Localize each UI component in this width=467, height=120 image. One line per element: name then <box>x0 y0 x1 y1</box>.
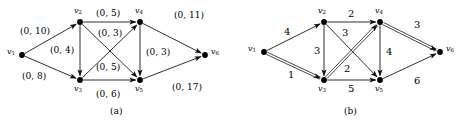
node-label-v4: v4 <box>375 7 383 15</box>
node-label-v6: v6 <box>446 45 454 53</box>
node-v5 <box>137 77 143 83</box>
edge-label-v1-v2: 4 <box>284 27 290 37</box>
node-v3 <box>321 77 327 83</box>
edge-label-v2-v3: (0, 4) <box>50 46 74 55</box>
node-v2 <box>77 19 83 25</box>
node-v5 <box>377 77 383 83</box>
node-label-subscript: 4 <box>380 9 384 15</box>
node-label-v1: v1 <box>7 48 15 56</box>
node-label-v2: v2 <box>74 7 82 15</box>
edge-label-v5-v6: (0, 17) <box>172 83 202 92</box>
node-label-v5: v5 <box>135 85 143 93</box>
node-label-v2: v2 <box>318 7 326 15</box>
node-label-v3: v3 <box>318 85 326 93</box>
panel-b: 4132325436v1v2v3v4v5v6 (b) <box>234 0 467 120</box>
edge-label-v3-v4: (0, 5) <box>96 63 120 72</box>
node-label-subscript: 1 <box>12 50 16 56</box>
node-v1 <box>261 49 267 55</box>
node-label-v4: v4 <box>135 7 143 15</box>
node-v6 <box>202 52 208 58</box>
edge-label-v1-v3: 1 <box>288 70 294 80</box>
node-label-v5: v5 <box>375 85 383 93</box>
edge-label-v2-v3: 3 <box>314 46 320 56</box>
node-label-subscript: 1 <box>253 47 257 53</box>
node-label-subscript: 2 <box>323 9 327 15</box>
edge-label-v3-v5: 5 <box>348 84 354 94</box>
edge-label-v3-v4: 2 <box>344 64 350 74</box>
node-v3 <box>77 77 83 83</box>
edge-label-v2-v5: (0, 3) <box>98 29 122 38</box>
node-v6 <box>437 49 443 55</box>
node-label-v6: v6 <box>211 48 219 56</box>
edge-label-v2-v5: 3 <box>342 28 348 38</box>
node-label-subscript: 2 <box>79 9 83 15</box>
edge-label-v4-v6: 3 <box>414 20 420 30</box>
edge-label-v2-v4: (0, 5) <box>96 9 120 18</box>
node-label-v1: v1 <box>248 45 256 53</box>
edge-label-v1-v2: (0, 10) <box>20 27 50 36</box>
panel-a-caption: (a) <box>110 107 122 116</box>
edge-label-v5-v6: 6 <box>414 76 420 86</box>
edge-label-v4-v5: (0, 3) <box>146 48 170 57</box>
edge-label-v3-v5: (0, 6) <box>96 90 120 99</box>
node-label-subscript: 6 <box>216 50 220 56</box>
node-v4 <box>377 19 383 25</box>
node-label-subscript: 4 <box>140 9 144 15</box>
node-v4 <box>137 19 143 25</box>
node-label-subscript: 3 <box>323 87 327 93</box>
node-v2 <box>321 19 327 25</box>
node-label-v3: v3 <box>74 85 82 93</box>
edge-label-v2-v4: 2 <box>348 9 354 19</box>
network-flow-figure: (0, 10)(0, 8)(0, 4)(0, 5)(0, 3)(0, 5)(0,… <box>0 0 467 120</box>
node-label-subscript: 5 <box>380 87 384 93</box>
edge-label-v4-v5: 4 <box>386 47 392 57</box>
edge-label-v1-v3: (0, 8) <box>22 72 46 81</box>
node-label-subscript: 6 <box>451 47 455 53</box>
node-label-subscript: 5 <box>140 87 144 93</box>
panel-a: (0, 10)(0, 8)(0, 4)(0, 5)(0, 3)(0, 5)(0,… <box>0 0 234 120</box>
panel-b-caption: (b) <box>344 107 357 116</box>
node-v1 <box>19 52 25 58</box>
edge-label-v4-v6: (0, 11) <box>174 11 204 20</box>
node-label-subscript: 3 <box>79 87 83 93</box>
